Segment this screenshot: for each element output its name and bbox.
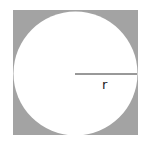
inscribed-circle-diagram: r (0, 0, 143, 150)
radius-label: r (102, 77, 108, 92)
